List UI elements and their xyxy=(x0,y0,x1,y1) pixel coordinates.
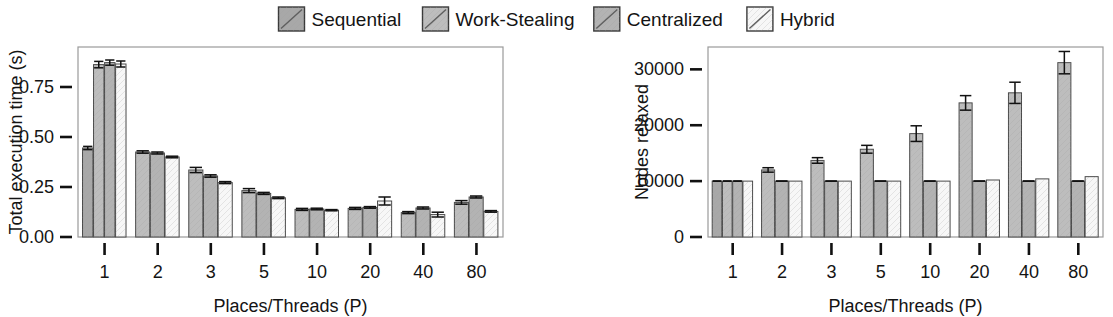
x-tick-label: 20 xyxy=(970,262,990,282)
bar-texture xyxy=(189,170,203,237)
bar-texture xyxy=(825,181,838,237)
bar-group xyxy=(136,151,180,237)
bar-texture xyxy=(1008,93,1021,237)
y-axis-title: Total execution time (s) xyxy=(6,49,26,234)
x-tick-label: 20 xyxy=(360,262,380,282)
y-tick-label: 30000 xyxy=(634,59,684,79)
bar-texture xyxy=(923,181,936,237)
bar-texture xyxy=(295,209,309,237)
legend-label: Sequential xyxy=(312,9,402,30)
bar-texture xyxy=(378,201,392,237)
bar-texture xyxy=(1022,181,1035,237)
bar-texture xyxy=(959,103,972,237)
x-tick-label: 1 xyxy=(728,262,738,282)
x-axis-title: Places/Threads (P) xyxy=(213,296,367,316)
bar-texture xyxy=(242,191,256,237)
bar-group xyxy=(295,208,338,237)
error-bar xyxy=(325,210,337,211)
bar-texture xyxy=(1071,181,1084,237)
legend-label: Centralized xyxy=(627,9,723,30)
x-tick-label: 2 xyxy=(777,262,787,282)
legend-label: Work-Stealing xyxy=(456,9,575,30)
bar-texture xyxy=(484,211,498,237)
bar-texture xyxy=(937,181,950,237)
x-tick-label: 2 xyxy=(153,262,163,282)
chart-legend: SequentialWork-StealingCentralizedHybrid xyxy=(279,7,835,31)
x-tick-label: 10 xyxy=(307,262,327,282)
figure-canvas: SequentialWork-StealingCentralizedHybrid… xyxy=(0,0,1113,317)
bar-texture xyxy=(401,213,415,237)
bar-texture xyxy=(789,181,802,237)
bar-texture xyxy=(348,208,362,237)
bar-texture xyxy=(469,197,483,237)
bar-texture xyxy=(838,181,851,237)
bar-texture xyxy=(454,202,468,237)
bar-texture xyxy=(973,181,986,237)
x-tick-label: 1 xyxy=(100,262,110,282)
bar-texture xyxy=(324,210,338,237)
y-tick-label: 0 xyxy=(674,227,684,247)
bar-texture xyxy=(1036,179,1049,237)
x-tick-label: 5 xyxy=(876,262,886,282)
bar-texture xyxy=(712,181,722,237)
x-tick-label: 40 xyxy=(1019,262,1039,282)
bar-texture xyxy=(136,152,150,237)
bar-group xyxy=(712,181,752,237)
x-axis-title: Places/Threads (P) xyxy=(828,296,982,316)
bar-group xyxy=(401,207,444,237)
bar-texture xyxy=(860,149,873,237)
bar-texture xyxy=(150,153,164,237)
bar-texture xyxy=(310,209,324,237)
bar-texture xyxy=(257,193,271,237)
bar-texture xyxy=(986,180,999,237)
y-axis-title: Nodes relaxed xyxy=(632,84,652,200)
bar-texture xyxy=(775,181,788,237)
bar-texture xyxy=(203,176,217,237)
bar-texture xyxy=(431,215,445,237)
bar-texture xyxy=(1085,177,1098,237)
bar-texture xyxy=(722,181,732,237)
bar-texture xyxy=(271,198,285,237)
bar-texture xyxy=(762,170,775,237)
bar-texture xyxy=(888,181,901,237)
legend-label: Hybrid xyxy=(780,9,835,30)
bar-texture xyxy=(165,157,179,237)
x-tick-label: 10 xyxy=(920,262,940,282)
bar-texture xyxy=(1058,63,1071,237)
x-tick-label: 3 xyxy=(206,262,216,282)
legend-entry-sequential: Sequential xyxy=(279,7,402,31)
bar-texture xyxy=(363,207,377,237)
legend-entry-work-stealing: Work-Stealing xyxy=(423,7,575,31)
bar-texture xyxy=(733,181,743,237)
x-tick-label: 40 xyxy=(413,262,433,282)
bar-texture xyxy=(83,148,93,237)
bar-texture xyxy=(811,160,824,237)
x-tick-label: 80 xyxy=(1068,262,1088,282)
bar-texture xyxy=(416,208,430,237)
bar-texture xyxy=(874,181,887,237)
bar-texture xyxy=(910,134,923,237)
bar-texture xyxy=(743,181,753,237)
legend-entry-centralized: Centralized xyxy=(594,7,723,31)
legend-entry-hybrid: Hybrid xyxy=(747,7,835,31)
bar-texture xyxy=(116,64,126,237)
bar-texture xyxy=(218,183,232,237)
x-tick-label: 5 xyxy=(259,262,269,282)
bar-texture xyxy=(105,63,115,237)
x-tick-label: 3 xyxy=(826,262,836,282)
bar-texture xyxy=(94,65,104,237)
x-tick-label: 80 xyxy=(466,262,486,282)
